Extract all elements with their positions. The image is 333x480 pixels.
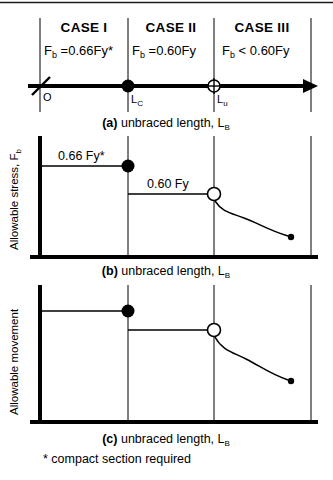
panel-c-case2-end-open-circle-icon bbox=[208, 324, 221, 337]
caption-panel-b: (b) unbraced length, LB bbox=[102, 264, 230, 280]
case-2-formula-rest: =0.60Fy bbox=[145, 43, 196, 58]
case-1-formula: Fb =0.66Fy* bbox=[44, 43, 113, 60]
caption-b-sub: B bbox=[225, 271, 230, 280]
tick-label-lu: Lu bbox=[217, 93, 228, 108]
panel-b-case1-end-filled-circle-icon bbox=[122, 160, 135, 173]
figure-container: CASE I CASE II CASE III Fb =0.66Fy* Fb =… bbox=[0, 0, 333, 480]
caption-c-sub: B bbox=[224, 439, 229, 448]
case-1-formula-rest: =0.66Fy* bbox=[57, 43, 113, 58]
case-1-formula-lead: F bbox=[44, 43, 52, 58]
case-3-formula-rest: < 0.60Fy bbox=[235, 43, 290, 58]
panel-b-label-060fy: 0.60 Fy bbox=[147, 177, 189, 191]
footnote-compact-section: * compact section required bbox=[43, 452, 191, 466]
svg-text:Fb < 0.60Fy: Fb < 0.60Fy bbox=[222, 43, 290, 60]
case-2-title: CASE II bbox=[146, 20, 197, 35]
panel-b-label-066fy: 0.66 Fy* bbox=[58, 149, 105, 163]
case-3-title: CASE III bbox=[235, 20, 290, 35]
case-3-formula-lead: F bbox=[222, 43, 230, 58]
caption-b-text: unbraced length, L bbox=[118, 264, 225, 278]
caption-c-bold: (c) bbox=[102, 432, 117, 446]
panel-b-case2-end-open-circle-icon bbox=[208, 188, 221, 201]
caption-panel-c: (c) unbraced length, LB bbox=[102, 432, 230, 448]
case-1-title: CASE I bbox=[61, 20, 108, 35]
caption-b-bold: (b) bbox=[102, 264, 118, 278]
caption-a-sub: B bbox=[224, 123, 229, 132]
svg-text:Fb =0.60Fy: Fb =0.60Fy bbox=[132, 43, 196, 60]
panel-c-case3-end-dot-icon bbox=[288, 378, 294, 384]
svg-text:Fb =0.66Fy*: Fb =0.66Fy* bbox=[44, 43, 113, 60]
case-3-formula: Fb < 0.60Fy bbox=[222, 43, 290, 60]
panel-b-y-axis-label: Allowable stress, Fb bbox=[8, 148, 23, 250]
panel-c-y-axis-label: Allowable movement bbox=[8, 308, 20, 415]
case-2-formula-lead: F bbox=[132, 43, 140, 58]
panel-c-case1-end-filled-circle-icon bbox=[122, 305, 135, 318]
marker-lc-filled-circle-icon bbox=[122, 80, 135, 93]
panel-b-case3-end-dot-icon bbox=[288, 234, 294, 240]
caption-a-bold: (a) bbox=[102, 116, 117, 130]
panel-b-case3-decay-curve bbox=[215, 201, 288, 236]
tick-label-origin: O bbox=[43, 91, 52, 103]
tick-label-lc: LC bbox=[131, 93, 143, 108]
caption-c-text: unbraced length, L bbox=[117, 432, 224, 446]
case-2-formula: Fb =0.60Fy bbox=[132, 43, 196, 60]
caption-a-text: unbraced length, L bbox=[117, 116, 224, 130]
panel-c-case3-decay-curve bbox=[215, 337, 288, 380]
diagram-svg: CASE I CASE II CASE III Fb =0.66Fy* Fb =… bbox=[0, 0, 333, 480]
caption-panel-a: (a) unbraced length, LB bbox=[102, 116, 230, 132]
